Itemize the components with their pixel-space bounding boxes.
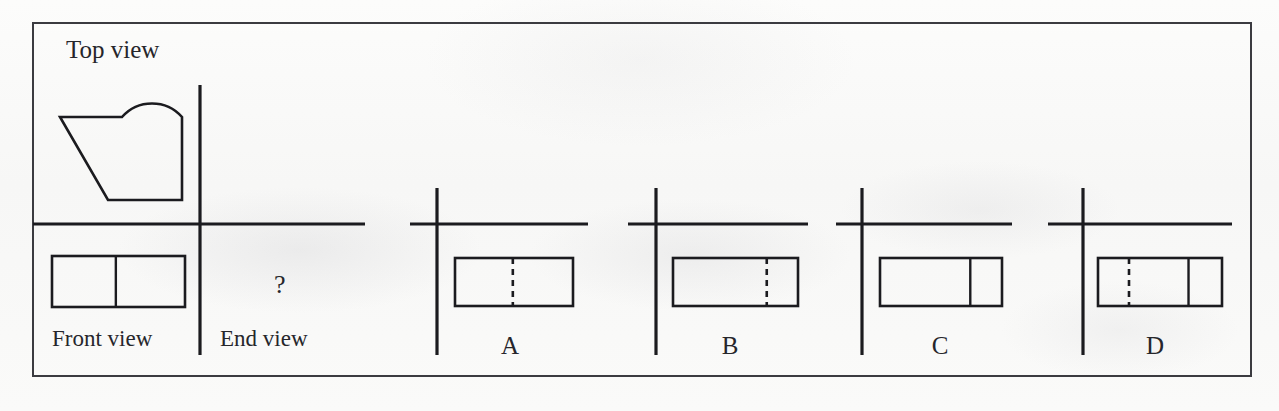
worksheet-page: Top view Front view End view ? ABCD [0, 0, 1279, 411]
option-c-rectangle[interactable] [880, 258, 1002, 306]
technical-drawing-canvas [0, 0, 1279, 411]
end-view-label: End view [220, 326, 308, 352]
option-d-rectangle[interactable] [1098, 258, 1222, 306]
front-view-rectangle [52, 256, 185, 307]
option-label-d[interactable]: D [1135, 332, 1175, 360]
option-label-b[interactable]: B [710, 332, 750, 360]
unknown-view-question-mark: ? [274, 270, 286, 300]
option-b-rectangle[interactable] [673, 258, 798, 306]
option-label-c[interactable]: C [920, 332, 960, 360]
front-view-label: Front view [52, 326, 152, 352]
answer-options-group [410, 188, 1232, 355]
top-view-label: Top view [66, 36, 159, 64]
top-view-profile [60, 103, 182, 200]
given-views-group [33, 85, 365, 355]
option-label-a[interactable]: A [490, 332, 530, 360]
